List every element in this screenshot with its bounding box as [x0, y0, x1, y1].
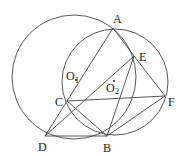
segment-bf — [107, 96, 165, 136]
label-o2-sub: 2 — [115, 87, 119, 96]
label-f: F — [168, 95, 175, 109]
segment-ae — [113, 28, 134, 56]
label-b: B — [103, 141, 111, 155]
label-o1: O — [66, 69, 75, 83]
label-c: C — [55, 95, 63, 109]
label-o1-sub: 1 — [75, 76, 79, 85]
label-a: A — [113, 12, 122, 26]
geometry-diagram: A E F C D B O 1 O 2 — [0, 0, 185, 156]
diagram-svg: A E F C D B O 1 O 2 — [0, 0, 185, 156]
label-e: E — [139, 50, 146, 64]
segment-cb — [67, 101, 107, 136]
segment-cf — [67, 96, 165, 101]
label-o2: O — [106, 81, 115, 95]
segment-ad — [45, 28, 113, 136]
label-d: D — [38, 140, 47, 154]
